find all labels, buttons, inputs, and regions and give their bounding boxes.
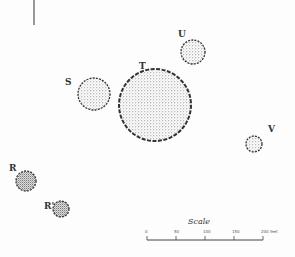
mound-site-plan: STUVRR' Scale 050100150200 feet — [0, 0, 295, 257]
plan-drawing — [0, 0, 295, 257]
mound-label-u: U — [178, 30, 186, 39]
mound-r1 — [53, 201, 69, 217]
scale-tick-label: 100 — [203, 230, 211, 234]
mound-label-r1: R' — [44, 202, 54, 211]
mound-r — [16, 171, 36, 191]
scale-tick-label: 0 — [145, 230, 148, 234]
mound-t — [119, 69, 191, 141]
scale-tick-label: 200 feet — [261, 230, 278, 234]
mound-label-s: S — [65, 78, 72, 87]
mound-u — [181, 40, 205, 64]
scale-bar — [147, 236, 263, 240]
mound-v — [246, 136, 262, 152]
mound-label-t: T — [139, 62, 146, 71]
scale-title: Scale — [188, 217, 210, 226]
scale-tick-label: 50 — [174, 230, 179, 234]
scale-tick-label: 150 — [232, 230, 240, 234]
mound-s — [78, 78, 110, 110]
mound-label-r: R — [9, 164, 16, 173]
mound-label-v: V — [268, 125, 275, 134]
